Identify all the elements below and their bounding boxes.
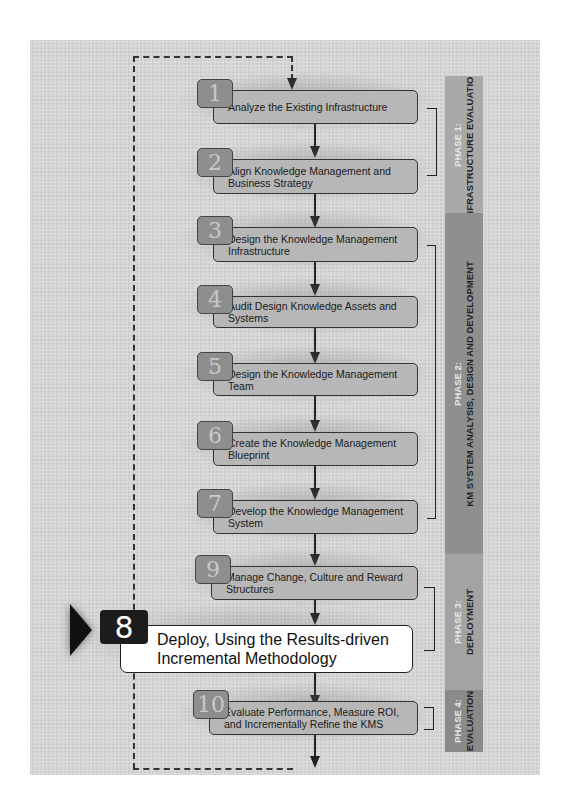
step-number-badge: 9 [195,555,231,584]
step-number-badge: 4 [197,285,233,314]
phase-name: EVALUATION [464,691,476,751]
step-label: Design the Knowledge Management Infrastr… [213,227,418,262]
phase-4-bracket [424,707,434,730]
phase-number: PHASE 1: [452,123,464,167]
phase-number: PHASE 2: [452,362,464,406]
feedback-loop-top [133,56,293,58]
step-label: Analyze the Existing Infrastructure [213,90,418,124]
step-label: Develop the Knowledge Management System [213,500,418,534]
step-number-badge: 7 [197,489,233,518]
step-2: 2 Align Knowledge Management and Busines… [197,148,418,194]
step-label: Audit Design Knowledge Assets and System… [213,296,418,328]
arrow-down-icon [310,756,320,768]
step-6: 6 Create the Knowledge Management Bluepr… [197,421,418,466]
feedback-loop-bottom [133,768,293,770]
step-label: Deploy, Using the Results-driven Increme… [120,625,413,673]
phase-2-bracket [427,245,436,519]
step-label: Align Knowledge Management and Business … [213,159,418,194]
step-number-badge: 8 [100,610,148,644]
phase-name: INFRASTRUCTURE EVALUATION [464,76,476,213]
step-number-badge: 6 [197,421,233,450]
step-label: Evaluate Performance, Measure ROI, and I… [209,701,418,735]
phase-number: PHASE 3: [452,600,464,644]
step-number-badge: 5 [197,352,233,381]
phase-name: DEPLOYMENT [464,589,476,655]
phase-4-bar: PHASE 4: EVALUATION [445,690,483,752]
step-5: 5 Design the Knowledge Management Team [197,352,418,396]
step-number-badge: 1 [197,79,233,108]
step-8-highlighted: 8 Deploy, Using the Results-driven Incre… [100,610,413,673]
step-1: 1 Analyze the Existing Infrastructure [197,79,418,124]
step-3: 3 Design the Knowledge Management Infras… [197,216,418,262]
phase-3-bracket [424,587,435,651]
step-number-badge: 3 [197,216,233,245]
step-10: 10 Evaluate Performance, Measure ROI, an… [193,690,418,735]
step-number-badge: 2 [197,148,233,177]
step-label: Manage Change, Culture and Reward Struct… [211,566,418,600]
step-label: Design the Knowledge Management Team [213,363,418,396]
step-label: Create the Knowledge Management Blueprin… [213,432,418,466]
phase-2-bar: PHASE 2: KM SYSTEM ANALYSIS, DESIGN AND … [445,213,483,554]
phase-3-bar: PHASE 3: DEPLOYMENT [445,554,483,690]
phase-number: PHASE 4: [452,699,464,743]
phase-1-bracket [427,108,437,176]
step-9: 9 Manage Change, Culture and Reward Stru… [195,555,418,600]
step-7: 7 Develop the Knowledge Management Syste… [197,489,418,534]
step-number-badge: 10 [193,690,229,719]
step-4: 4 Audit Design Knowledge Assets and Syst… [197,285,418,328]
phase-name: KM SYSTEM ANALYSIS, DESIGN AND DEVELOPME… [464,261,476,506]
phase-1-bar: PHASE 1: INFRASTRUCTURE EVALUATION [445,76,483,213]
